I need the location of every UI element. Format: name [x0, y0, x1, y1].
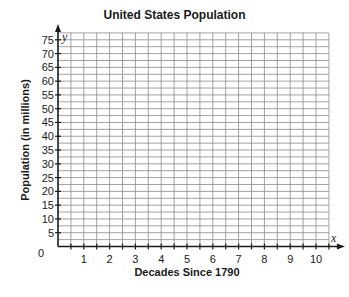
x-axis-arrow-icon: [337, 244, 345, 250]
chart-plot-area: 1234567891051015202530354045505560657075…: [0, 0, 349, 297]
y-tick-label: 45: [42, 116, 54, 128]
y-tick-label: 70: [42, 48, 54, 60]
y-tick-label: 25: [42, 172, 54, 184]
x-variable-label: x: [330, 231, 337, 245]
x-tick-label: 7: [236, 253, 242, 265]
y-tick-label: 5: [48, 227, 54, 239]
y-tick-label: 50: [42, 103, 54, 115]
y-tick-label: 35: [42, 144, 54, 156]
y-tick-label: 30: [42, 158, 54, 170]
y-tick-label: 20: [42, 185, 54, 197]
y-tick-label: 65: [42, 61, 54, 73]
y-tick-label: 40: [42, 130, 54, 142]
x-tick-label: 1: [81, 253, 87, 265]
x-tick-label: 2: [107, 253, 113, 265]
x-tick-label: 10: [310, 253, 322, 265]
y-tick-label: 55: [42, 89, 54, 101]
y-tick-label: 10: [42, 213, 54, 225]
y-tick-label: 60: [42, 75, 54, 87]
y-axis-arrow-icon: [55, 24, 61, 32]
origin-label: 0: [38, 247, 44, 259]
x-tick-label: 5: [184, 253, 190, 265]
x-tick-label: 6: [210, 253, 216, 265]
x-tick-label: 9: [287, 253, 293, 265]
x-tick-label: 4: [158, 253, 164, 265]
x-tick-label: 3: [132, 253, 138, 265]
x-tick-label: 8: [261, 253, 267, 265]
y-tick-label: 75: [42, 34, 54, 46]
y-variable-label: y: [61, 30, 68, 44]
y-tick-label: 15: [42, 199, 54, 211]
